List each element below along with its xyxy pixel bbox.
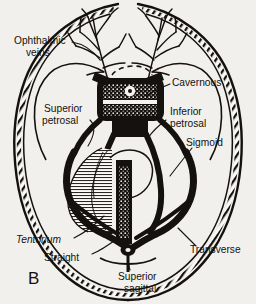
label-transverse-line1: Transverse xyxy=(190,244,241,255)
label-cavernous-line1: Cavernous xyxy=(172,77,221,88)
cavernous-sinus xyxy=(97,78,164,121)
label-straight: Straight xyxy=(44,252,79,263)
basilar-stem xyxy=(112,121,148,137)
label-ophthalmic-veins-line1: Ophthalmic xyxy=(14,35,66,46)
label-sigmoid: Sigmoid xyxy=(186,137,223,148)
anatomy-illustration: Ophthalmic veins Cavernous Superior petr… xyxy=(0,0,256,304)
label-sigmoid-line1: Sigmoid xyxy=(186,137,223,148)
label-inferior-petrosal: Inferior petrosal xyxy=(170,106,206,129)
label-straight-line1: Straight xyxy=(44,252,79,263)
label-ophthalmic-veins-line2: veins xyxy=(26,47,50,58)
label-inferior-petrosal-line2: petrosal xyxy=(170,118,206,129)
label-tentorium: Tentorium xyxy=(16,234,61,245)
label-superior-petrosal-line2: petrosal xyxy=(42,115,78,126)
label-tentorium-line1: Tentorium xyxy=(16,234,61,245)
label-superior-sagittal-line1: Superior xyxy=(118,271,157,282)
label-inferior-petrosal-line1: Inferior xyxy=(170,106,202,117)
label-superior-petrosal-line1: Superior xyxy=(44,103,83,114)
label-superior-sagittal: Superior sagittal xyxy=(118,271,157,294)
label-cavernous: Cavernous xyxy=(172,77,221,88)
label-superior-petrosal: Superior petrosal xyxy=(42,103,83,126)
label-transverse: Transverse xyxy=(190,244,241,255)
label-superior-sagittal-line2: sagittal xyxy=(124,283,156,294)
panel-label: B xyxy=(28,269,39,288)
venous-sinus-figure: Ophthalmic veins Cavernous Superior petr… xyxy=(0,0,256,304)
